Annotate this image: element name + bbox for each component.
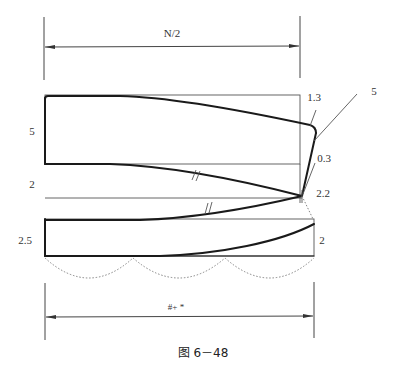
bottom-dimension: #+ * — [45, 282, 314, 340]
left-label-5: 5 — [29, 125, 35, 137]
dotted-connector — [302, 196, 313, 219]
right-label-1-3: 1.3 — [307, 91, 321, 103]
top-dimension: N/2 — [44, 16, 300, 80]
right-label-0-3: 0.3 — [317, 152, 331, 164]
left-label-2: 2 — [29, 178, 35, 190]
top-dimension-label: N/2 — [164, 27, 181, 39]
upper-guide-rect — [45, 95, 300, 164]
scallop-arcs — [45, 258, 314, 278]
lower-guide-rect — [45, 219, 314, 256]
equal-length-marks — [192, 170, 212, 214]
top-dimension-arrow — [45, 46, 299, 47]
scallop-arc — [225, 258, 314, 278]
tick-mark — [205, 203, 208, 214]
figure-caption: 图 6－48 — [178, 346, 229, 360]
tick-mark — [209, 202, 212, 213]
middle-lower-curve — [45, 196, 302, 220]
scallop-arc — [45, 258, 133, 278]
left-label-2-5: 2.5 — [18, 234, 32, 246]
scallop-arc — [133, 258, 225, 278]
construction-lines — [45, 95, 314, 256]
right-label-2-2: 2.2 — [316, 187, 330, 199]
top-curve — [45, 96, 316, 133]
bottom-dimension-arrow — [46, 316, 313, 317]
lower-band-curve — [45, 224, 314, 256]
right-label-5: 5 — [371, 85, 377, 97]
pattern-diagram: N/2 — [0, 0, 399, 380]
tick-mark — [192, 170, 196, 180]
leader-line-1-3 — [310, 110, 316, 126]
middle-upper-curve — [45, 164, 302, 196]
pattern-outline — [45, 96, 316, 256]
right-label-2: 2 — [319, 234, 325, 246]
bottom-dimension-label: #+ * — [168, 302, 185, 312]
right-slant-edge — [302, 133, 316, 196]
